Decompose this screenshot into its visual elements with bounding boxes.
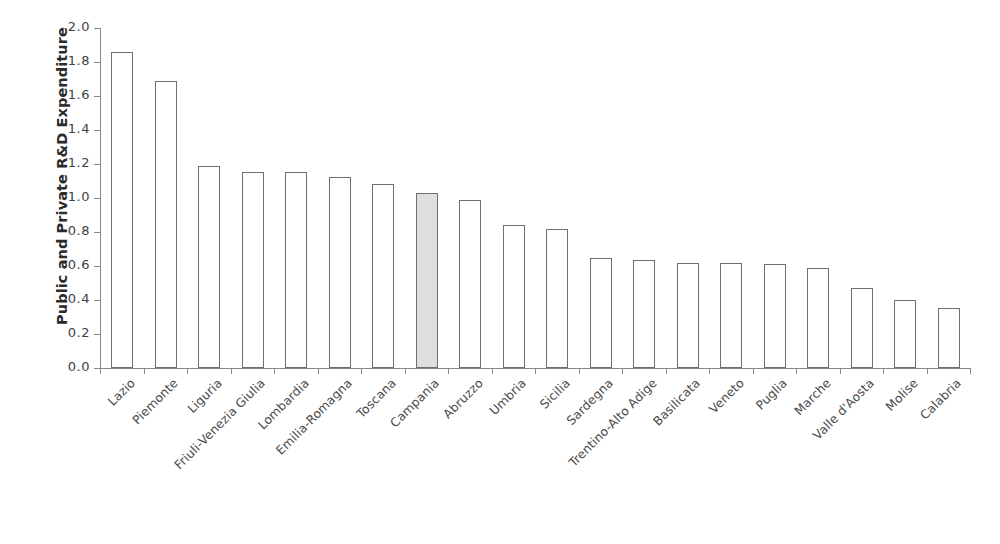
y-tick-label: 0.4 bbox=[48, 291, 90, 306]
y-tick bbox=[94, 198, 100, 199]
y-tick bbox=[94, 28, 100, 29]
x-tick bbox=[405, 368, 406, 374]
bar-chart: Public and Private R&D Expenditure 0.00.… bbox=[0, 0, 1000, 544]
y-tick-label: 0.2 bbox=[48, 325, 90, 340]
x-tick bbox=[753, 368, 754, 374]
y-tick-label: 0.8 bbox=[48, 223, 90, 238]
x-axis-label: Trentino-Alto Adige bbox=[566, 376, 660, 470]
x-tick bbox=[144, 368, 145, 374]
x-axis-label: Abruzzo bbox=[440, 376, 485, 421]
x-axis-label: Marche bbox=[792, 376, 834, 418]
bar-puglia bbox=[764, 264, 786, 368]
y-tick bbox=[94, 300, 100, 301]
x-tick bbox=[970, 368, 971, 374]
bar-valle-d-aosta bbox=[851, 288, 873, 368]
y-tick bbox=[94, 266, 100, 267]
x-axis-label: Veneto bbox=[706, 376, 746, 416]
bar-piemonte bbox=[155, 81, 177, 368]
x-axis-label: Puglia bbox=[754, 376, 791, 413]
bar-liguria bbox=[198, 166, 220, 368]
bar-lazio bbox=[111, 52, 133, 368]
x-tick bbox=[100, 368, 101, 374]
y-axis-line bbox=[100, 28, 101, 368]
bar-basilicata bbox=[677, 263, 699, 368]
bar-campania bbox=[416, 193, 438, 368]
bar-lombardia bbox=[285, 172, 307, 368]
y-tick bbox=[94, 334, 100, 335]
x-tick bbox=[709, 368, 710, 374]
x-tick bbox=[927, 368, 928, 374]
x-tick bbox=[361, 368, 362, 374]
x-tick bbox=[622, 368, 623, 374]
bar-sardegna bbox=[590, 258, 612, 369]
bar-umbria bbox=[503, 225, 525, 368]
x-tick bbox=[448, 368, 449, 374]
y-tick bbox=[94, 164, 100, 165]
x-tick bbox=[187, 368, 188, 374]
y-tick-label: 1.0 bbox=[48, 189, 90, 204]
bar-toscana bbox=[372, 184, 394, 368]
x-axis-label: Liguria bbox=[185, 376, 225, 416]
y-tick-label: 2.0 bbox=[48, 19, 90, 34]
x-tick bbox=[796, 368, 797, 374]
x-tick bbox=[535, 368, 536, 374]
y-tick bbox=[94, 232, 100, 233]
x-axis-label: Molise bbox=[883, 376, 921, 414]
bar-sicilia bbox=[546, 229, 568, 368]
x-axis-label: Lazio bbox=[105, 376, 138, 409]
x-axis-label: Sicilia bbox=[537, 376, 573, 412]
plot-area: 0.00.20.40.60.81.01.21.41.61.82.0 LazioP… bbox=[100, 28, 970, 368]
bar-molise bbox=[894, 300, 916, 368]
bar-trentino-alto-adige bbox=[633, 260, 655, 368]
y-tick-label: 0.0 bbox=[48, 359, 90, 374]
x-axis-label: Piemonte bbox=[130, 376, 181, 427]
x-tick bbox=[274, 368, 275, 374]
y-tick-label: 0.6 bbox=[48, 257, 90, 272]
x-tick bbox=[883, 368, 884, 374]
bar-friuli-venezia-giulia bbox=[242, 172, 264, 368]
x-tick bbox=[579, 368, 580, 374]
x-tick bbox=[231, 368, 232, 374]
y-tick bbox=[94, 130, 100, 131]
x-tick bbox=[318, 368, 319, 374]
x-axis-label: Umbria bbox=[487, 376, 529, 418]
x-tick bbox=[492, 368, 493, 374]
x-axis-label: Calabria bbox=[918, 376, 964, 422]
bar-abruzzo bbox=[459, 200, 481, 368]
bar-marche bbox=[807, 268, 829, 368]
y-tick bbox=[94, 96, 100, 97]
x-tick bbox=[840, 368, 841, 374]
y-tick bbox=[94, 62, 100, 63]
x-axis-label: Emilia-Romagna bbox=[274, 376, 356, 458]
bar-veneto bbox=[720, 263, 742, 368]
y-tick-label: 1.4 bbox=[48, 121, 90, 136]
bar-calabria bbox=[938, 308, 960, 368]
y-tick-label: 1.2 bbox=[48, 155, 90, 170]
y-tick-label: 1.6 bbox=[48, 87, 90, 102]
x-tick bbox=[666, 368, 667, 374]
y-tick-label: 1.8 bbox=[48, 53, 90, 68]
bar-emilia-romagna bbox=[329, 177, 351, 368]
